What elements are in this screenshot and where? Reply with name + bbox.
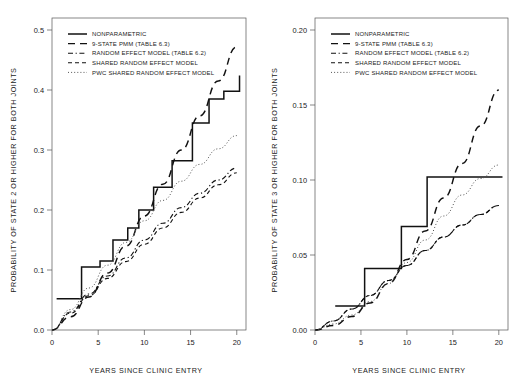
right-x-ticklabels: 05101520 [312,338,502,347]
series-pwc-shared-random-effect-model [52,136,237,330]
x-tick-label: 0 [50,338,54,347]
y-tick-label: 0.00 [292,326,306,335]
y-tick-label: 0.5 [34,26,44,35]
x-tick-label: 20 [233,338,241,347]
left-x-ticklabels: 05101520 [50,338,241,347]
y-tick-label: 0.05 [292,251,306,260]
legend-label: SHARED RANDOM EFFECT MODEL [355,60,461,66]
y-tick-label: 0.15 [292,101,306,110]
left-x-axis-title: YEARS SINCE CLINIC ENTRY [89,366,202,375]
series-9-state-pmm-table-6-3 [52,47,237,330]
right-panel: 05101520 0.000.050.100.150.20 NONPARAMET… [259,0,517,387]
x-tick-label: 0 [312,338,316,347]
two-panel-line-chart-figure: 05101520 0.00.10.20.30.40.5 NONPARAMETRI… [0,0,517,387]
left-x-tickmarks [52,330,237,335]
legend-label: RANDOM EFFECT MODEL (TABLE 6.2) [355,50,469,56]
legend-label: NONPARAMETRIC [92,31,147,37]
y-tick-label: 0.20 [292,26,306,35]
series-shared-random-effect-model [315,206,499,331]
x-tick-label: 15 [186,338,194,347]
left-y-axis-title: PROBABILITY OF STATE 2 OR HIGHER FOR BOT… [9,68,18,293]
series-random-effect-model-table-6-2 [315,206,499,331]
right-legend: NONPARAMETRIC9-STATE PMM (TABLE 6.3)RAND… [331,31,478,75]
y-tick-label: 0.3 [34,146,44,155]
legend-label: 9-STATE PMM (TABLE 6.3) [92,41,170,47]
right-x-tickmarks [315,330,499,335]
right-x-axis-title: YEARS SINCE CLINIC ENTRY [352,366,465,375]
x-tick-label: 10 [140,338,148,347]
x-tick-label: 5 [358,338,362,347]
left-panel-svg: 05101520 0.00.10.20.30.40.5 NONPARAMETRI… [0,0,258,387]
x-tick-label: 5 [96,338,100,347]
legend-label: 9-STATE PMM (TABLE 6.3) [355,41,433,47]
y-tick-label: 0.0 [34,326,44,335]
right-panel-svg: 05101520 0.000.050.100.150.20 NONPARAMET… [259,0,517,387]
x-tick-label: 10 [402,338,410,347]
legend-label: RANDOM EFFECT MODEL (TABLE 6.2) [92,50,206,56]
x-tick-label: 15 [448,338,456,347]
legend-label: SHARED RANDOM EFFECT MODEL [92,60,198,66]
right-y-ticklabels: 0.000.050.100.150.20 [292,26,306,335]
x-tick-label: 20 [494,338,502,347]
right-y-tickmarks [310,30,315,330]
series-9-state-pmm-table-6-3 [315,90,499,330]
right-series-group [315,90,502,330]
left-y-tickmarks [47,30,52,330]
legend-label: PWC SHARED RANDOM EFFECT MODEL [355,70,478,76]
y-tick-label: 0.10 [292,176,306,185]
right-y-axis-title: PROBABILITY OF STATE 3 OR HIGHER FOR BOT… [270,68,279,293]
left-panel: 05101520 0.00.10.20.30.40.5 NONPARAMETRI… [0,0,259,387]
left-y-ticklabels: 0.00.10.20.30.40.5 [34,26,44,335]
y-tick-label: 0.4 [34,86,44,95]
legend-label: NONPARAMETRIC [355,31,410,37]
legend-label: PWC SHARED RANDOM EFFECT MODEL [92,70,215,76]
series-nonparametric [335,177,502,306]
y-tick-label: 0.1 [34,266,44,275]
left-series-group [52,47,240,330]
y-tick-label: 0.2 [34,206,44,215]
left-legend: NONPARAMETRIC9-STATE PMM (TABLE 6.3)RAND… [68,31,215,75]
